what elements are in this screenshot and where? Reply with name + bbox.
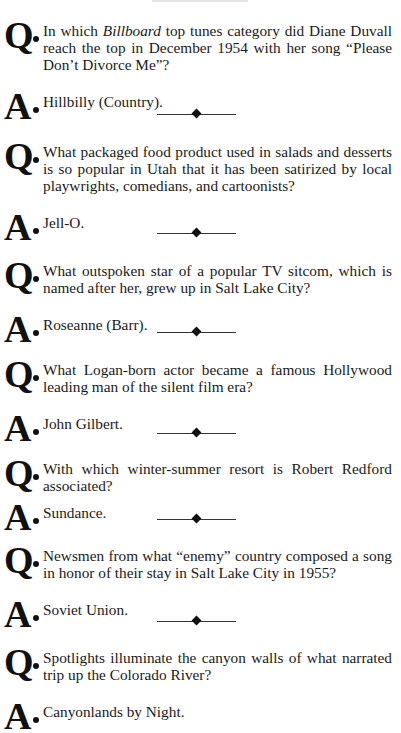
qa-item-5: Q With which winter-summer resort is Rob… <box>0 460 401 521</box>
a-marker: A <box>4 411 31 445</box>
section-divider <box>157 433 236 434</box>
q-marker: Q <box>4 18 34 52</box>
question-row: Q What outspoken star of a popular TV si… <box>0 262 401 296</box>
section-divider <box>157 114 236 115</box>
section-divider <box>157 621 236 622</box>
qa-item-2: Q What packaged food product used in sal… <box>0 143 401 231</box>
answer-row: A Hillbilly (Country). <box>0 93 401 110</box>
question-text: What Logan-born actor became a famous Ho… <box>43 361 392 395</box>
answer-text: Hillbilly (Country). <box>43 93 392 110</box>
answer-text: Jell-O. <box>43 214 392 231</box>
a-marker: A <box>4 500 31 534</box>
question-row: Q Newsmen from what “enemy” country comp… <box>0 547 401 581</box>
question-row: Q What Logan-born actor became a famous … <box>0 361 401 395</box>
running-header-cut-off <box>152 0 248 2</box>
answer-text: John Gilbert. <box>43 415 392 432</box>
answer-text: Roseanne (Barr). <box>43 316 392 333</box>
qa-item-3: Q What outspoken star of a popular TV si… <box>0 262 401 333</box>
section-divider <box>157 519 236 520</box>
q-marker: Q <box>4 139 34 173</box>
a-marker: A <box>4 312 31 346</box>
qa-item-6: Q Newsmen from what “enemy” country comp… <box>0 547 401 618</box>
section-divider <box>157 332 236 333</box>
question-row: Q What packaged food product used in sal… <box>0 143 401 194</box>
billboard-title: Billboard <box>103 22 161 39</box>
question-row: Q In which Billboard top tunes category … <box>0 22 401 73</box>
question-row: Q Spotlights illuminate the canyon walls… <box>0 649 401 683</box>
q-marker: Q <box>4 456 34 490</box>
qa-item-1: Q In which Billboard top tunes category … <box>0 22 401 110</box>
a-marker: A <box>4 210 31 244</box>
a-marker: A <box>4 699 31 733</box>
qa-item-4: Q What Logan-born actor became a famous … <box>0 361 401 432</box>
q-marker: Q <box>4 543 34 577</box>
a-marker: A <box>4 89 31 123</box>
a-marker: A <box>4 597 31 631</box>
question-text: In which Billboard top tunes category di… <box>43 22 392 73</box>
q-marker: Q <box>4 258 34 292</box>
answer-text: Canyonlands by Night. <box>43 703 392 720</box>
answer-row: A Canyonlands by Night. <box>0 703 401 720</box>
question-row: Q With which winter-summer resort is Rob… <box>0 460 401 494</box>
section-divider <box>157 233 236 234</box>
answer-text: Soviet Union. <box>43 601 392 618</box>
question-text: Spotlights illuminate the canyon walls o… <box>43 649 392 683</box>
q-marker: Q <box>4 357 34 391</box>
question-text: Newsmen from what “enemy” country compos… <box>43 547 392 581</box>
answer-row: A Jell-O. <box>0 214 401 231</box>
question-text: With which winter-summer resort is Rober… <box>43 460 392 494</box>
q-marker: Q <box>4 645 34 679</box>
answer-row: A Soviet Union. <box>0 601 401 618</box>
diamond-ornament-icon <box>192 109 202 119</box>
question-text: What outspoken star of a popular TV sitc… <box>43 262 392 296</box>
answer-row: A John Gilbert. <box>0 415 401 432</box>
qa-item-7: Q Spotlights illuminate the canyon walls… <box>0 649 401 720</box>
question-text: What packaged food product used in salad… <box>43 143 392 194</box>
